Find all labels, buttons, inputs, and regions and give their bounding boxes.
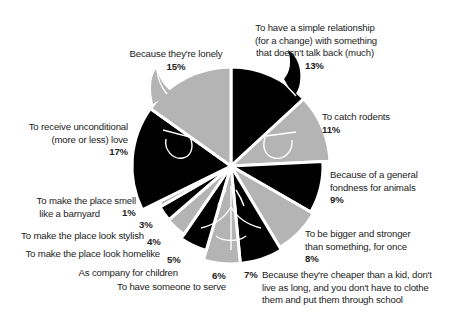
label-rodents: To catch rodents 11% <box>322 111 390 136</box>
label-line: Because they're lonely <box>130 48 223 59</box>
label-line: To make the place look homelike <box>25 248 160 259</box>
pct-value: 11% <box>322 124 390 137</box>
label-line: them and put them through school <box>262 294 403 305</box>
pct-value: 9% <box>330 194 418 207</box>
label-children: As company for children <box>60 267 178 280</box>
label-line: To be bigger and stronger <box>305 228 411 239</box>
label-line: To have a simple relationship <box>255 22 374 33</box>
pct-stylish: 3% <box>139 219 153 230</box>
pct-cheaper: 7% <box>244 269 258 280</box>
label-line: As company for children <box>79 267 178 278</box>
label-line: To make the place look stylish <box>21 230 144 241</box>
pct-homelike: 4% <box>147 236 161 247</box>
label-line: than something, for once <box>305 241 407 252</box>
label-line: live as long, and you don't have to clot… <box>262 282 429 293</box>
label-line: To have someone to serve <box>117 281 226 292</box>
label-line: Because they're cheaper than a kid, don'… <box>262 269 432 280</box>
label-line: To make the place smell <box>37 195 136 206</box>
pct-value: 8% <box>305 253 411 266</box>
label-line: Because of a general <box>330 169 418 180</box>
label-serve: To have someone to serve <box>110 281 226 294</box>
label-stylish: To make the place look stylish <box>4 230 144 243</box>
label-line: To receive unconditional <box>29 121 128 132</box>
label-line: (more or less) love <box>51 134 128 145</box>
label-bigger: To be bigger and stronger than something… <box>305 228 411 266</box>
pct-serve: 6% <box>212 270 226 281</box>
label-fondness: Because of a general fondness for animal… <box>330 169 418 207</box>
label-love: To receive unconditional (more or less) … <box>6 121 128 159</box>
label-line: (for a change) with something <box>255 35 377 46</box>
label-line: fondness for animals <box>330 182 416 193</box>
label-line: To catch rodents <box>322 111 390 122</box>
label-barnyard: To make the place smell like a barnyard <box>20 195 136 220</box>
label-line: that doesn't talk back (much) <box>256 47 374 58</box>
label-relationship: To have a simple relationship (for a cha… <box>255 22 375 72</box>
label-lonely: Because they're lonely 15% <box>126 48 226 73</box>
pct-children: 5% <box>167 254 181 265</box>
label-homelike: To make the place look homelike <box>10 248 160 261</box>
label-cheaper: Because they're cheaper than a kid, don'… <box>262 269 432 307</box>
pct-value: 13% <box>255 60 375 73</box>
pct-value: 17% <box>6 146 128 159</box>
pct-barnyard: 1% <box>122 207 136 218</box>
pct-value: 15% <box>126 61 226 74</box>
